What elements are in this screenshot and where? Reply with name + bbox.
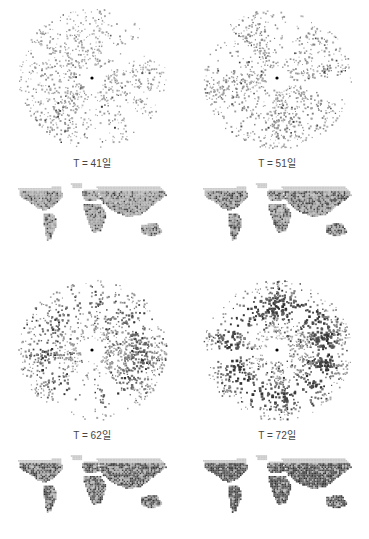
data-point [269,316,270,317]
data-point [104,80,106,82]
data-point [132,84,133,85]
data-point [229,106,230,107]
data-point [310,125,312,127]
data-point [83,47,85,49]
data-point [228,380,230,382]
data-point [102,21,103,22]
data-point [161,73,162,74]
data-point [273,90,275,92]
data-point [307,346,308,347]
data-point [25,351,27,353]
data-point [223,317,224,318]
data-point [32,317,33,318]
data-point [73,20,74,21]
data-point [300,37,301,38]
data-point [251,26,253,28]
data-point [299,118,301,120]
data-point [102,141,103,142]
data-point [274,107,276,109]
data-point [144,378,146,380]
data-point [46,68,48,70]
data-point [53,382,55,384]
data-point [262,72,264,74]
data-point [240,73,241,74]
data-point [254,319,256,321]
data-point [156,68,158,70]
data-point [306,354,307,355]
data-point [291,338,292,339]
data-point [316,125,318,127]
data-point [70,58,72,60]
data-point [249,341,250,342]
data-point [240,319,242,321]
data-point [287,140,289,142]
data-point [101,389,103,391]
data-point [132,68,133,69]
data-point [295,92,297,94]
data-point [120,133,121,134]
data-point [290,132,292,134]
data-point [100,301,101,302]
data-point [322,346,324,348]
data-point [31,73,32,74]
data-point [301,346,302,347]
data-point [97,327,99,329]
data-point [70,326,72,328]
data-point [347,368,349,370]
data-point [304,140,305,141]
data-point [129,352,131,354]
data-point [120,368,122,370]
data-point [56,63,58,65]
data-point [258,98,260,100]
data-point [324,364,327,367]
data-point [124,92,126,94]
data-point [309,332,310,333]
data-point [258,366,259,367]
data-point [88,118,89,119]
data-point [156,72,158,74]
data-point [67,286,69,288]
data-point [261,145,263,147]
data-point [45,121,47,123]
data-point [149,328,150,329]
data-point [18,349,20,351]
data-point [72,50,73,51]
data-point [147,64,148,65]
data-point [48,112,49,113]
center-node [90,348,93,351]
data-point [24,361,26,363]
data-point [212,376,213,377]
data-point [255,25,256,26]
data-point [95,37,97,39]
data-point [348,363,349,364]
data-point [217,373,219,375]
data-point [147,367,149,369]
data-point [52,48,54,50]
data-point [161,364,163,366]
data-point [321,327,323,329]
data-point [63,336,65,338]
data-point [125,99,127,101]
data-point [60,357,62,359]
data-point [248,377,250,379]
data-point [215,334,217,336]
data-point [295,134,296,135]
data-point [94,323,95,324]
data-point [49,93,50,94]
data-point [73,106,74,107]
data-point [95,409,96,410]
data-point [125,337,127,339]
data-point [132,76,133,77]
data-point [241,388,243,390]
data-point [100,399,102,401]
data-point [345,374,346,375]
data-point [164,354,165,355]
data-point [97,100,98,101]
data-point [44,355,46,357]
data-point [217,70,219,72]
data-point [26,376,28,378]
data-point [110,122,111,123]
data-point [70,143,71,144]
data-point [324,69,326,71]
data-point [248,373,250,375]
